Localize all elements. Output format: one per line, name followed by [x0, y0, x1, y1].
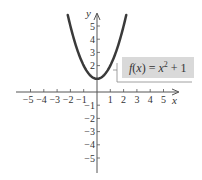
y-tick-label: −4 [84, 139, 95, 150]
x-tick-label: 4 [148, 94, 153, 105]
y-tick-label: 4 [90, 34, 95, 45]
y-tick-label: −5 [84, 153, 95, 164]
x-tick-label: 5 [161, 94, 166, 105]
x-tick-label: 3 [134, 94, 139, 105]
y-tick-label: −3 [84, 126, 95, 137]
function-graph: −5−4−3−2−112345 −5−4−3−2−12345 x y f(x) … [0, 0, 202, 180]
y-axis-label: y [85, 7, 91, 19]
y-tick-label: 5 [90, 21, 95, 32]
y-tick-label: 2 [90, 60, 95, 71]
x-tick-label: 1 [108, 94, 113, 105]
x-tick-label: −2 [63, 94, 74, 105]
function-label: f(x) = x2 + 1 [129, 60, 187, 75]
x-tick-label: 2 [121, 94, 126, 105]
x-tick-label: −5 [23, 94, 34, 105]
function-label-box: f(x) = x2 + 1 [113, 57, 194, 82]
y-tick-label: −2 [84, 113, 95, 124]
x-tick-label: −3 [49, 94, 60, 105]
y-tick-label: 3 [90, 47, 95, 58]
y-tick-label: −1 [84, 100, 95, 111]
x-axis-label: x [171, 94, 177, 106]
x-tick-label: −4 [36, 94, 47, 105]
